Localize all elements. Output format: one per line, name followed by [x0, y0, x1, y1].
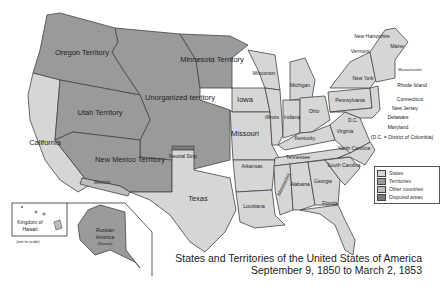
region-florida[interactable]	[300, 205, 355, 255]
label-south-carolina: South Carolina	[327, 162, 360, 168]
label-hawaii-2: Hawaii	[22, 226, 37, 232]
label-wisconsin: Wisconsin	[253, 70, 276, 76]
region-hawaii[interactable]	[54, 220, 62, 230]
label-russian-2: America	[96, 234, 115, 240]
region-michigan[interactable]	[290, 58, 315, 100]
label-hawaii-note: (not to scale)	[16, 239, 40, 244]
label-new-york: New York	[352, 75, 374, 81]
region-neutral-strip[interactable]	[172, 146, 194, 150]
label-pennsylvania: Pennsylvania	[335, 97, 365, 103]
label-virginia: Virginia	[337, 128, 354, 134]
label-florida: Florida	[322, 200, 338, 206]
label-russian-note: (Russia)	[98, 241, 114, 246]
label-louisiana: Louisiana	[243, 203, 265, 209]
label-delaware: Delaware	[387, 114, 408, 120]
label-neutral-strip: Neutral Strip	[169, 153, 197, 159]
label-dc: D.C.	[348, 117, 358, 123]
label-california: California	[29, 138, 62, 147]
label-missouri: Missouri	[231, 129, 259, 138]
label-oregon-1: Oregon Territory	[55, 48, 109, 57]
label-arkansas: Arkansas	[242, 163, 263, 169]
label-georgia: Georgia	[314, 178, 332, 184]
label-new-hampshire: New Hampshire	[354, 33, 390, 39]
label-new-jersey: New Jersey	[392, 105, 419, 111]
legend-territories: Territories	[377, 177, 437, 185]
label-vermont: Vermont	[351, 48, 370, 54]
label-russian-1: Russian	[96, 227, 114, 233]
label-dc-note: (D.C. = District of Columbia)	[371, 134, 434, 140]
label-alabama: Alabama	[290, 181, 310, 187]
label-minnesota: Minnesota Territory	[180, 55, 244, 64]
label-massachusetts: Massachusetts	[398, 68, 422, 72]
map-title: States and Territories of the United Sta…	[175, 252, 422, 276]
label-unorganized: Unorganized territory	[145, 93, 215, 102]
legend-other-countries: Other countries	[377, 185, 437, 193]
label-utah: Utah Territory	[78, 108, 123, 117]
label-rhode-island: Rhode Island	[397, 82, 427, 88]
label-hawaii-1: Kingdom of	[17, 219, 43, 225]
label-iowa: Iowa	[237, 95, 254, 104]
label-indiana: Indiana	[284, 114, 301, 120]
legend-states: States	[377, 169, 437, 177]
label-mexico: Mexico	[94, 179, 110, 185]
label-north-carolina: North Carolina	[338, 145, 370, 151]
label-new-mexico: New Mexico Territory	[95, 155, 165, 164]
label-michigan: Michigan	[290, 82, 310, 88]
legend-disputed: Disputed areas	[377, 193, 437, 201]
label-ohio: Ohio	[309, 108, 320, 114]
title-line-2: September 9, 1850 to March 2, 1853	[175, 264, 422, 276]
label-texas: Texas	[188, 194, 208, 203]
map-legend: States Territories Other countries Dispu…	[374, 166, 440, 204]
label-connecticut: Connecticut	[397, 96, 424, 102]
label-kentucky: Kentucky	[295, 135, 316, 141]
title-line-1: States and Territories of the United Sta…	[175, 252, 422, 264]
label-maine: Maine	[390, 43, 404, 49]
region-new-york[interactable]	[330, 52, 376, 88]
label-illinois: Illinois	[265, 114, 279, 120]
label-maryland: Maryland	[388, 124, 409, 130]
label-tennessee: Tennessee	[286, 154, 310, 160]
